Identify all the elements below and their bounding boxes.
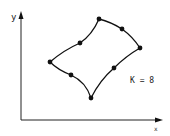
point-6: [69, 73, 74, 78]
point-8: [78, 41, 83, 46]
point-5: [89, 96, 94, 101]
annotation-label: K = 8: [130, 76, 154, 85]
point-4: [112, 66, 117, 71]
point-1: [97, 17, 102, 22]
diagram-canvas: y x K = 8: [0, 0, 170, 136]
y-axis-label: y: [11, 12, 17, 22]
x-axis-label: x: [154, 125, 158, 132]
point-7: [48, 60, 53, 65]
point-2: [120, 27, 125, 32]
point-3: [138, 46, 143, 51]
y-axis-arrow-icon: [19, 11, 24, 19]
closed-curve: [50, 19, 140, 98]
x-axis-arrow-icon: [155, 118, 163, 123]
control-points: [48, 17, 143, 101]
